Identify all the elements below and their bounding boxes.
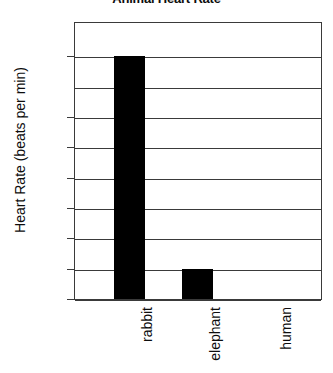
gridline	[75, 179, 321, 180]
gridline	[75, 300, 321, 301]
y-tick-mark	[67, 299, 74, 300]
y-tick-mark	[67, 147, 74, 148]
y-tick-mark	[67, 238, 74, 239]
x-tick-label: rabbit	[138, 307, 156, 371]
plot-area	[74, 22, 322, 300]
gridline	[75, 88, 321, 89]
y-tick-mark	[67, 117, 74, 118]
gridline	[75, 239, 321, 240]
bar	[182, 269, 213, 299]
y-tick-mark	[67, 269, 74, 270]
gridline	[75, 118, 321, 119]
y-tick-mark	[67, 208, 74, 209]
gridline	[75, 148, 321, 149]
gridline	[75, 57, 321, 58]
y-axis-title: Heart Rate (beats per min)	[9, 0, 31, 300]
x-tick-label: elephant	[206, 307, 224, 371]
y-tick-mark	[67, 178, 74, 179]
y-tick-mark	[67, 56, 74, 57]
bar	[114, 56, 145, 299]
x-tick-label: human	[277, 307, 295, 371]
chart-title: Animal Heart Rate	[0, 0, 333, 6]
gridline	[75, 209, 321, 210]
